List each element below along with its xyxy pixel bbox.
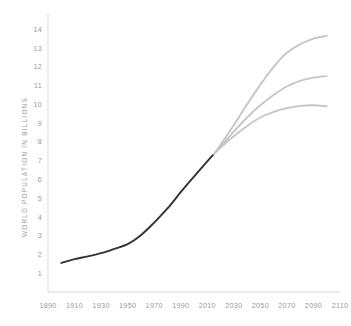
y-tick-label: 1 xyxy=(38,269,42,278)
x-tick-label: 2010 xyxy=(199,301,216,310)
y-tick-label: 9 xyxy=(38,119,42,128)
y-tick-label: 13 xyxy=(33,44,42,53)
y-tick-label: 2 xyxy=(38,250,42,259)
y-tick-label: 12 xyxy=(33,62,42,71)
chart-series-lines xyxy=(61,36,326,263)
chart-canvas: 1234567891011121314 18901910193019501970… xyxy=(0,0,351,326)
y-axis-title: WORLD POPULATION IN BILLIONS xyxy=(21,97,28,237)
x-tick-label: 1970 xyxy=(146,301,163,310)
x-tick-label: 1950 xyxy=(119,301,136,310)
y-tick-label: 5 xyxy=(38,194,42,203)
x-tick-label: 1910 xyxy=(66,301,83,310)
population-chart: 1234567891011121314 18901910193019501970… xyxy=(0,0,351,326)
x-tick-label: 2090 xyxy=(305,301,322,310)
y-tick-label: 8 xyxy=(38,137,42,146)
x-tick-label: 2110 xyxy=(332,301,349,310)
y-tick-label: 4 xyxy=(38,213,42,222)
series-line xyxy=(214,76,327,154)
y-tick-label: 10 xyxy=(33,100,42,109)
series-line xyxy=(214,36,327,154)
x-tick-label: 1930 xyxy=(92,301,109,310)
x-tick-label: 2030 xyxy=(225,301,242,310)
series-line xyxy=(61,154,214,263)
x-tick-label: 1890 xyxy=(39,301,56,310)
chart-axes xyxy=(48,14,340,292)
x-axis-tick-labels: 1890191019301950197019902010203020502070… xyxy=(39,301,348,310)
y-tick-label: 6 xyxy=(38,175,42,184)
x-tick-label: 1990 xyxy=(172,301,189,310)
y-axis-tick-labels: 1234567891011121314 xyxy=(33,25,42,278)
y-tick-label: 7 xyxy=(38,156,42,165)
x-tick-label: 2070 xyxy=(278,301,295,310)
x-tick-label: 2050 xyxy=(252,301,269,310)
y-tick-label: 11 xyxy=(34,81,42,90)
y-tick-label: 3 xyxy=(38,231,42,240)
y-tick-label: 14 xyxy=(33,25,42,34)
